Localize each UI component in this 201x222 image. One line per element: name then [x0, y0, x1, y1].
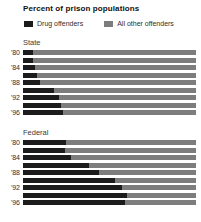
drug-offenders-segment [23, 110, 63, 115]
stacked-bar [23, 50, 196, 55]
year-tick-label: '80 [0, 50, 23, 55]
drug-offenders-segment [23, 140, 66, 145]
bar-row [0, 73, 201, 78]
chart: Percent of prison populations Drug offen… [0, 0, 201, 222]
bar-row: '92 [0, 95, 201, 100]
drug-offenders-segment [23, 73, 37, 78]
stacked-bar [23, 58, 196, 63]
stacked-bar [23, 88, 196, 93]
year-tick-label: '96 [0, 200, 23, 205]
stacked-bar [23, 65, 196, 70]
bar-row [0, 163, 201, 168]
bar-row: '88 [0, 80, 201, 85]
year-tick-label: '88 [0, 80, 23, 85]
drug-offenders-segment [23, 58, 33, 63]
legend-item-all-other-offenders: All other offenders [104, 20, 174, 27]
year-tick-label: '88 [0, 170, 23, 175]
drug-offenders-segment [23, 103, 61, 108]
stacked-bar [23, 185, 196, 190]
drug-offenders-segment [23, 193, 127, 198]
stacked-bar [23, 200, 196, 205]
state-section-label: State [23, 38, 201, 47]
state-bars: '80'84'88'92'96 [0, 50, 201, 115]
drug-offenders-segment [23, 200, 125, 205]
drug-offenders-segment [23, 163, 89, 168]
legend: Drug offenders All other offenders [24, 20, 201, 27]
bar-row [0, 193, 201, 198]
drug-offenders-segment [23, 50, 33, 55]
drug-offenders-segment [23, 170, 99, 175]
chart-title: Percent of prison populations [23, 4, 201, 13]
stacked-bar [23, 193, 196, 198]
bar-row [0, 178, 201, 183]
bar-row [0, 88, 201, 93]
bar-row: '80 [0, 50, 201, 55]
stacked-bar [23, 95, 196, 100]
stacked-bar [23, 110, 196, 115]
stacked-bar [23, 73, 196, 78]
bar-row [0, 58, 201, 63]
stacked-bar [23, 140, 196, 145]
drug-offenders-segment [23, 155, 71, 160]
bar-row: '84 [0, 65, 201, 70]
all-other-offenders-swatch-icon [104, 21, 113, 27]
year-tick-label: '84 [0, 65, 23, 70]
drug-offenders-segment [23, 148, 65, 153]
bar-row [0, 148, 201, 153]
year-tick-label: '84 [0, 155, 23, 160]
drug-offenders-segment [23, 65, 35, 70]
federal-bars: '80'84'88'92'96 [0, 140, 201, 205]
drug-offenders-segment [23, 80, 40, 85]
bar-row: '80 [0, 140, 201, 145]
drug-offenders-segment [23, 88, 54, 93]
legend-label-all-other-offenders: All other offenders [117, 20, 174, 27]
section-federal: Federal '80'84'88'92'96 [0, 128, 201, 205]
stacked-bar [23, 155, 196, 160]
legend-item-drug-offenders: Drug offenders [24, 20, 83, 27]
stacked-bar [23, 163, 196, 168]
stacked-bar [23, 148, 196, 153]
bar-row: '88 [0, 170, 201, 175]
drug-offenders-segment [23, 178, 115, 183]
bar-row: '96 [0, 200, 201, 205]
drug-offenders-segment [23, 185, 122, 190]
stacked-bar [23, 170, 196, 175]
federal-section-label: Federal [23, 128, 201, 137]
stacked-bar [23, 103, 196, 108]
bar-row: '96 [0, 110, 201, 115]
drug-offenders-swatch-icon [24, 21, 33, 27]
year-tick-label: '80 [0, 140, 23, 145]
year-tick-label: '92 [0, 185, 23, 190]
stacked-bar [23, 80, 196, 85]
year-tick-label: '92 [0, 95, 23, 100]
year-tick-label: '96 [0, 110, 23, 115]
bar-row: '84 [0, 155, 201, 160]
drug-offenders-segment [23, 95, 59, 100]
bar-row [0, 103, 201, 108]
legend-label-drug-offenders: Drug offenders [37, 20, 83, 27]
section-state: State '80'84'88'92'96 [0, 38, 201, 115]
bar-row: '92 [0, 185, 201, 190]
stacked-bar [23, 178, 196, 183]
